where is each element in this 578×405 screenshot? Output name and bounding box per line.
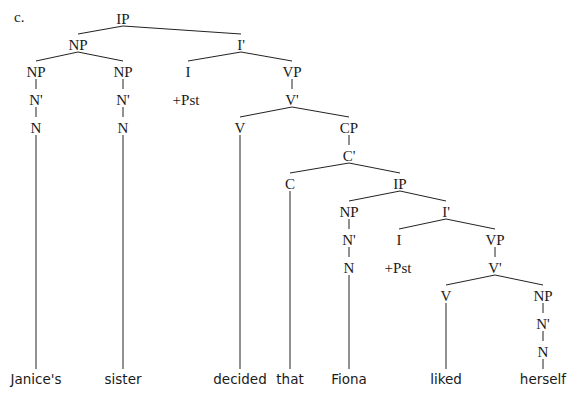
tree-edge bbox=[188, 52, 241, 61]
tree-node-ibar1: I' bbox=[237, 37, 245, 53]
tree-node-ip1: IP bbox=[116, 11, 129, 27]
tree-node-v2: V bbox=[441, 288, 452, 304]
syntax-tree: IPNPI'NPNPIVPN'N'+PstV'NNVCPC'CIPNPI'N'I… bbox=[0, 0, 578, 405]
tree-node-cbar1: C' bbox=[343, 148, 356, 164]
terminal-word: that bbox=[276, 371, 303, 387]
tree-node-nbar1: N' bbox=[29, 92, 43, 108]
tree-node-vbar1: V' bbox=[285, 92, 299, 108]
terminal-words: Janice'ssisterdecidedthatFionalikedherse… bbox=[9, 371, 567, 387]
tree-edge bbox=[349, 191, 400, 201]
tree-node-n1: N bbox=[31, 120, 42, 136]
tree-edge bbox=[292, 107, 349, 117]
tree-edge bbox=[78, 52, 123, 61]
tree-node-c1: C bbox=[285, 176, 295, 192]
tree-edge bbox=[241, 52, 292, 61]
tree-node-v1: V bbox=[235, 120, 246, 136]
tree-node-n3: N bbox=[344, 260, 355, 276]
tree-node-n4: N bbox=[538, 344, 549, 360]
tree-node-np3: NP bbox=[113, 64, 132, 80]
tree-edge bbox=[495, 275, 543, 285]
tree-node-ibar2: I' bbox=[442, 204, 450, 220]
tree-node-np1: NP bbox=[68, 37, 87, 53]
terminal-word: Fiona bbox=[331, 371, 367, 387]
tree-node-pst1: +Pst bbox=[173, 92, 201, 108]
tree-node-np4: NP bbox=[339, 204, 358, 220]
tree-node-np5: NP bbox=[533, 288, 552, 304]
tree-node-ip2: IP bbox=[393, 176, 406, 192]
tree-node-n2: N bbox=[118, 120, 129, 136]
tree-node-vp2: VP bbox=[485, 232, 504, 248]
tree-edge bbox=[400, 191, 446, 201]
tree-edge bbox=[446, 219, 495, 229]
tree-edge bbox=[240, 107, 292, 117]
tree-node-i2: I bbox=[397, 232, 402, 248]
terminal-word: herself bbox=[520, 371, 568, 387]
tree-node-nbar3: N' bbox=[342, 232, 356, 248]
tree-node-cp1: CP bbox=[340, 120, 358, 136]
tree-node-np2: NP bbox=[26, 64, 45, 80]
tree-node-pst2: +Pst bbox=[385, 260, 413, 276]
tree-node-nbar2: N' bbox=[116, 92, 130, 108]
tree-node-vp1: VP bbox=[282, 64, 301, 80]
tree-edge bbox=[349, 163, 400, 173]
terminal-word: decided bbox=[213, 371, 267, 387]
tree-edge bbox=[78, 26, 123, 34]
terminal-word: sister bbox=[105, 371, 142, 387]
tree-edge bbox=[290, 163, 349, 173]
tree-edge bbox=[399, 219, 446, 229]
terminal-word: Janice's bbox=[9, 371, 61, 387]
tree-node-i1: I bbox=[186, 64, 191, 80]
tree-edge bbox=[36, 52, 78, 61]
tree-node-vbar2: V' bbox=[488, 260, 502, 276]
terminal-word: liked bbox=[430, 371, 462, 387]
tree-node-nbar4: N' bbox=[536, 316, 550, 332]
tree-edge bbox=[446, 275, 495, 285]
tree-edge bbox=[123, 26, 241, 34]
